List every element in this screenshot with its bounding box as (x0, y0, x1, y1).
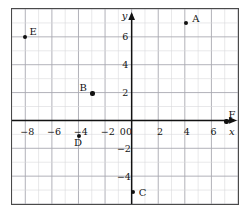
y-tick-label-2: 2 (122, 88, 128, 98)
point-label-f: F (229, 110, 236, 120)
y-tick-label-3: −2 (117, 144, 131, 154)
data-point-c (131, 190, 135, 194)
y-tick-label-4: −4 (117, 172, 131, 182)
x-tick-label-1: −6 (47, 127, 61, 137)
coordinate-plane-figure: −8−6−4−20246642−2−40xyABCDEF (0, 0, 250, 213)
point-label-c: C (139, 188, 147, 198)
point-label-b: B (79, 83, 86, 93)
y-tick-label-1: 4 (122, 60, 128, 70)
x-tick-label-4: 0 (126, 127, 132, 137)
point-label-a: A (192, 14, 199, 24)
data-point-f (224, 119, 228, 123)
data-point-b (90, 91, 94, 95)
x-tick-label-6: 4 (184, 127, 190, 137)
x-tick-label-5: 2 (157, 127, 163, 137)
x-tick-label-7: 6 (211, 127, 217, 137)
point-label-e: E (29, 27, 36, 37)
origin-label: 0 (120, 127, 126, 137)
plot-frame: −8−6−4−20246642−2−40xyABCDEF (11, 8, 239, 205)
y-tick-label-0: 6 (122, 32, 128, 42)
x-tick-label-3: −2 (101, 127, 115, 137)
y-axis-name: y (122, 11, 128, 21)
point-label-d: D (74, 138, 82, 148)
x-axis-name: x (229, 127, 235, 137)
x-tick-label-0: −8 (20, 127, 34, 137)
